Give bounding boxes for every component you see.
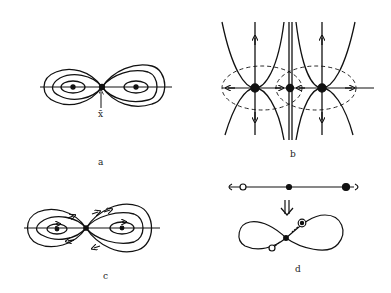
figure-canvas xyxy=(0,0,391,293)
panel-c-diagram xyxy=(24,204,160,251)
panel-b-label: b xyxy=(290,149,296,159)
panel-d-diagram xyxy=(229,184,358,252)
annotation-xbar: x̄ xyxy=(98,109,103,119)
panel-a-diagram xyxy=(40,65,172,108)
panel-a-label: a xyxy=(98,157,103,167)
panel-c-label: c xyxy=(103,271,108,281)
panel-b-diagram xyxy=(222,22,374,140)
panel-d-label: d xyxy=(295,264,301,274)
